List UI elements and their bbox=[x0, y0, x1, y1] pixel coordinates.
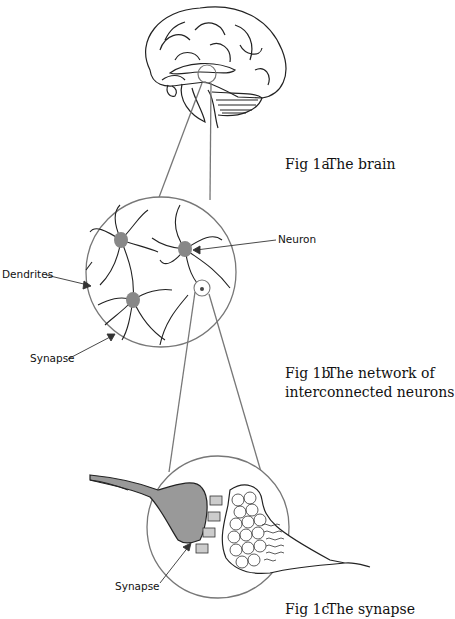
caption-number: Fig 1a bbox=[285, 155, 327, 174]
caption-fig-1c: Fig 1cThe synapse bbox=[285, 600, 415, 619]
label-neuron: Neuron bbox=[278, 233, 316, 245]
zoom-connector-1 bbox=[158, 83, 211, 200]
caption-title: The brain bbox=[327, 156, 396, 172]
caption-title: The network of bbox=[327, 365, 435, 381]
label-dendrites: Dendrites bbox=[2, 268, 53, 280]
caption-title-line2: interconnected neurons bbox=[285, 384, 455, 400]
label-synapse-detail: Synapse bbox=[115, 580, 160, 592]
neuron-network-illustration bbox=[86, 197, 236, 347]
synapse-detail-illustration bbox=[90, 456, 370, 598]
label-synapse-network: Synapse bbox=[30, 352, 75, 364]
caption-fig-1a: Fig 1aThe brain bbox=[285, 155, 396, 174]
caption-number: Fig 1b bbox=[285, 364, 327, 383]
caption-number: Fig 1c bbox=[285, 600, 327, 619]
caption-fig-1b: Fig 1bThe network of interconnected neur… bbox=[285, 364, 455, 402]
brain-illustration bbox=[146, 7, 286, 128]
caption-title: The synapse bbox=[327, 601, 415, 617]
